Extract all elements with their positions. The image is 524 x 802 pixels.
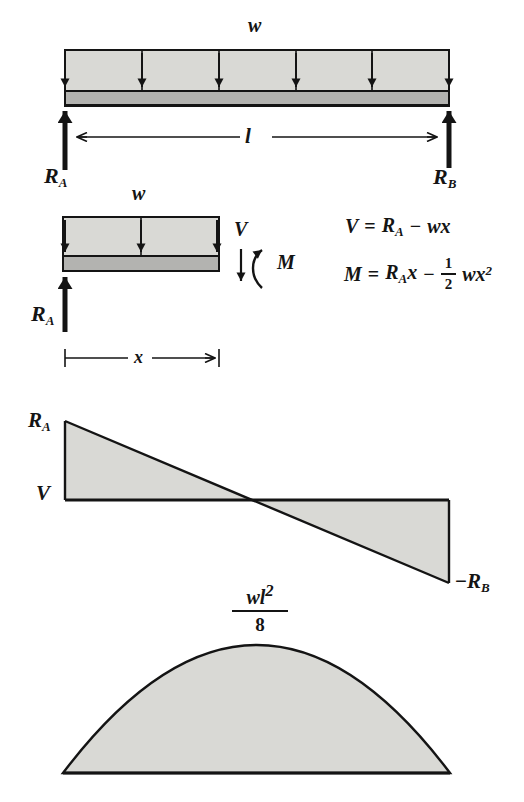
top-beam-diagram	[64, 50, 450, 170]
span-length-label: l	[245, 126, 251, 147]
shear-equation: V = RA − wx	[345, 215, 451, 238]
moment-equation: M = RAx − 1 2 wx2	[344, 255, 492, 292]
fbd-shear-label: V	[234, 219, 247, 239]
fbd-load-label: w	[132, 183, 145, 203]
fbd-distance-label: x	[134, 348, 143, 366]
beam-strip	[65, 91, 449, 105]
shear-diagram	[65, 421, 449, 583]
figure-drawing	[0, 0, 524, 802]
reaction-right-label: RB	[433, 166, 456, 190]
fbd-moment-arrow	[253, 250, 262, 288]
fbd-reaction-label: RA	[31, 303, 54, 327]
fbd-moment-label: M	[277, 252, 295, 272]
moment-diagram	[63, 645, 450, 773]
fbd-beam-strip	[63, 256, 219, 271]
beam-load-shear-moment-figure: w l RA RB w V M RA x V = RA − wx M = RAx…	[0, 0, 524, 802]
reaction-left-label: RA	[44, 165, 67, 189]
free-body-diagram	[63, 217, 262, 367]
moment-parabola	[63, 645, 450, 773]
top-load-label: w	[248, 15, 261, 35]
one-half-fraction: 1 2	[441, 255, 457, 292]
shear-max-label: RA	[28, 410, 51, 433]
distributed-load-block	[65, 50, 449, 91]
shear-min-label: −RB	[455, 571, 490, 594]
shear-axis-label: V	[36, 483, 50, 504]
moment-peak-label: wl2 8	[232, 583, 288, 634]
